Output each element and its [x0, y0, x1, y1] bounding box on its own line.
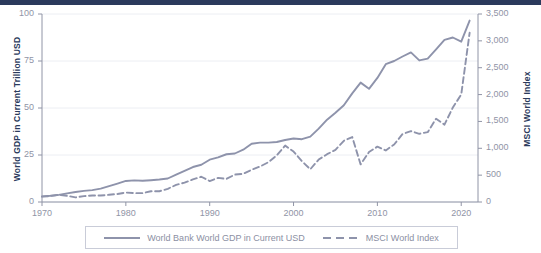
- legend-label-gdp: World Bank World GDP in Current USD: [147, 233, 305, 243]
- plot-area: [0, 0, 541, 253]
- legend-item-gdp: World Bank World GDP in Current USD: [104, 233, 305, 243]
- tick-marks: [38, 14, 482, 206]
- series-line-msci: [42, 33, 470, 198]
- gridlines: [42, 14, 478, 202]
- chart-legend: World Bank World GDP in Current USD MSCI…: [85, 226, 458, 249]
- legend-label-msci: MSCI World Index: [366, 233, 439, 243]
- series-lines: [42, 21, 470, 198]
- chart-container: World GDP in Current Trillion USD MSCI W…: [0, 0, 541, 253]
- legend-swatch-dashed: [323, 234, 359, 242]
- legend-item-msci: MSCI World Index: [323, 233, 439, 243]
- legend-swatch-solid: [104, 234, 140, 242]
